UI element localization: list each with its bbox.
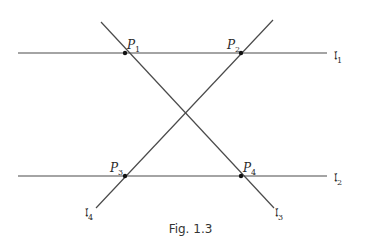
- lines-layer: [18, 20, 327, 208]
- point-label-P1: P1: [127, 39, 140, 54]
- line-label-l1: 𝔩1: [334, 50, 342, 65]
- point-label-P3: P3: [110, 162, 123, 177]
- line-l4: [96, 20, 273, 208]
- figure-caption: Fig. 1.3: [0, 222, 381, 236]
- point-label-P2: P2: [227, 39, 240, 54]
- line-label-l4: 𝔩4: [85, 207, 93, 222]
- point-label-P4: P4: [243, 162, 256, 177]
- incidence-diagram: [0, 0, 381, 251]
- point-P3: [123, 174, 127, 178]
- points-layer: [123, 51, 243, 178]
- line-label-l3: 𝔩3: [275, 207, 283, 222]
- line-label-l2: 𝔩2: [334, 172, 342, 187]
